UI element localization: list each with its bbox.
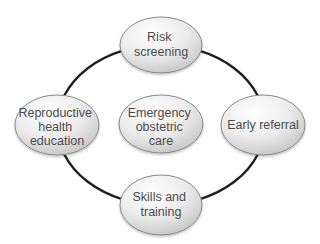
node-reproductive-health-education: Reproductive health education bbox=[15, 95, 99, 155]
node-emergency-obstetric-care: Emergency obstetric care bbox=[119, 95, 203, 153]
node-early-referral: Early referral bbox=[221, 95, 305, 155]
node-risk-screening: Risk screening bbox=[120, 17, 202, 73]
node-skills-and-training: Skills and training bbox=[120, 175, 202, 235]
cycle-diagram: Risk screening Reproductive health educa… bbox=[0, 0, 320, 244]
node-label: Early referral bbox=[227, 118, 299, 132]
node-label: Skills and training bbox=[133, 190, 190, 219]
